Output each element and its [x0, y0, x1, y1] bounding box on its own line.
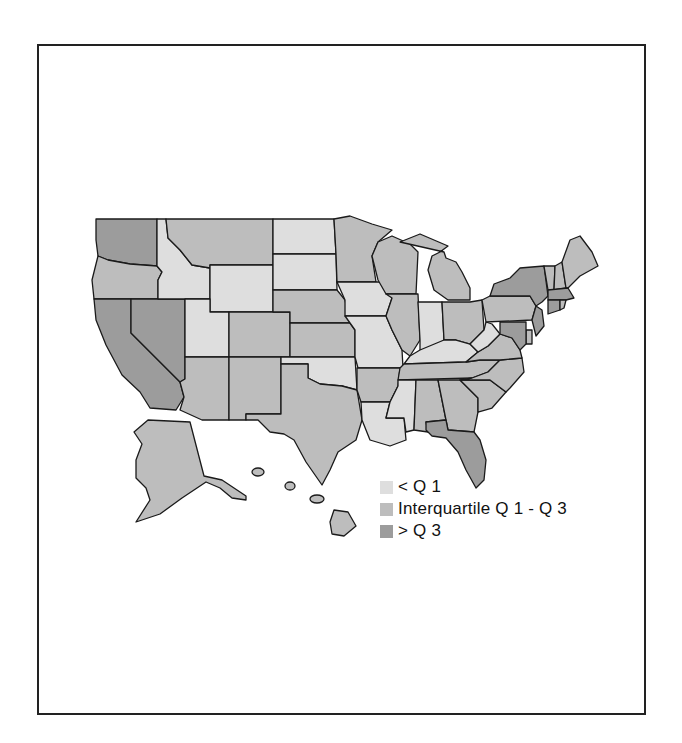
map-legend: < Q 1 Interquartile Q 1 - Q 3 > Q 3	[380, 476, 567, 542]
state-KS[interactable]	[290, 323, 355, 357]
legend-item-mid: Interquartile Q 1 - Q 3	[380, 498, 567, 520]
legend-label-low: < Q 1	[398, 477, 441, 497]
state-CO[interactable]	[229, 312, 290, 357]
state-ME[interactable]	[562, 236, 598, 288]
state-AK[interactable]	[134, 420, 246, 522]
us-choropleth-map	[0, 0, 682, 743]
state-HI-island[interactable]	[252, 468, 264, 476]
state-NM[interactable]	[229, 357, 281, 420]
state-SD[interactable]	[273, 254, 337, 290]
state-ND[interactable]	[273, 219, 336, 254]
state-HI-island[interactable]	[285, 482, 295, 490]
legend-label-high: > Q 3	[398, 521, 441, 541]
legend-swatch-high	[380, 525, 393, 538]
legend-swatch-low	[380, 481, 393, 494]
state-HI[interactable]	[330, 510, 356, 536]
legend-swatch-mid	[380, 503, 393, 516]
state-RI[interactable]	[560, 300, 566, 310]
legend-label-mid: Interquartile Q 1 - Q 3	[398, 499, 567, 519]
state-PA[interactable]	[482, 296, 536, 322]
state-WY[interactable]	[210, 265, 273, 312]
state-AZ[interactable]	[180, 357, 229, 420]
legend-item-high: > Q 3	[380, 520, 567, 542]
state-DE[interactable]	[526, 330, 532, 344]
state-CT[interactable]	[548, 300, 560, 314]
legend-item-low: < Q 1	[380, 476, 567, 498]
state-HI-island[interactable]	[310, 495, 324, 503]
state-MA[interactable]	[548, 288, 574, 300]
